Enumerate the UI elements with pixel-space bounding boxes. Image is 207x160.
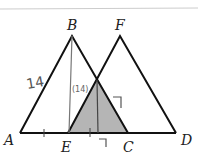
geometry-diagram: 14 (14) A B F E C D bbox=[0, 0, 207, 160]
top-rule bbox=[0, 8, 198, 9]
label-f: F bbox=[114, 17, 126, 33]
right-angle-mark-base bbox=[99, 139, 106, 147]
side-ab-length: 14 bbox=[25, 73, 45, 92]
label-b: B bbox=[66, 17, 77, 33]
label-a: A bbox=[2, 132, 14, 148]
label-c: C bbox=[123, 139, 134, 155]
right-angle-mark-side bbox=[113, 97, 121, 108]
label-d: D bbox=[180, 132, 192, 148]
label-e: E bbox=[60, 139, 71, 155]
altitude-length: (14) bbox=[72, 85, 88, 94]
